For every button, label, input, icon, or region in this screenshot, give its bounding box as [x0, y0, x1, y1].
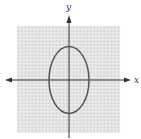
coordinate-plane: x y — [0, 0, 141, 139]
x-axis-label: x — [134, 75, 139, 85]
y-axis-label: y — [65, 2, 72, 12]
y-axis-up-arrow-icon — [67, 15, 72, 23]
x-axis-left-arrow-icon — [5, 78, 12, 83]
x-axis-right-arrow-icon — [124, 78, 131, 83]
